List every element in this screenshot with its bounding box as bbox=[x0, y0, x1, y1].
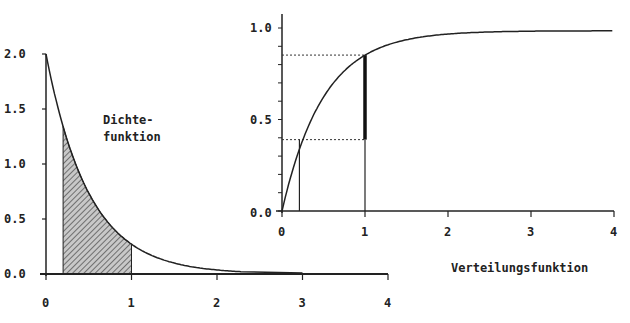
cdf-label: Verteilungsfunktion bbox=[451, 261, 588, 275]
density-label-line1: Dichte- bbox=[103, 113, 154, 127]
density-x-tick-label: 0 bbox=[42, 296, 49, 310]
density-y-tick-label: 2.0 bbox=[4, 47, 26, 61]
density-y-tick-label: 0.0 bbox=[4, 267, 26, 281]
cdf-x-tick-label: 3 bbox=[527, 225, 534, 239]
density-label-line2: funktion bbox=[103, 130, 161, 144]
density-x-ticks: 01234 bbox=[42, 274, 391, 310]
cdf-y-tick-label: 0.0 bbox=[250, 206, 272, 220]
chart-canvas: 0.00.51.01.52.0 01234 Dichte- funktion 0… bbox=[0, 0, 630, 323]
shaded-area bbox=[63, 127, 131, 275]
density-y-tick-label: 1.5 bbox=[4, 102, 26, 116]
density-y-tick-label: 1.0 bbox=[4, 157, 26, 171]
cdf-y-tick-label: 0.5 bbox=[250, 113, 272, 127]
cdf-x-tick-label: 4 bbox=[610, 225, 617, 239]
cdf-x-tick-label: 2 bbox=[444, 225, 451, 239]
density-x-tick-label: 2 bbox=[213, 296, 220, 310]
density-x-tick-label: 4 bbox=[384, 296, 391, 310]
cdf-y-tick-label: 1.0 bbox=[250, 21, 272, 35]
density-y-tick-label: 0.5 bbox=[4, 212, 26, 226]
cdf-chart: 0.00.51.0 01234 bbox=[250, 10, 622, 239]
density-x-tick-label: 1 bbox=[128, 296, 135, 310]
cdf-x-tick-label: 1 bbox=[361, 225, 368, 239]
density-x-tick-label: 3 bbox=[299, 296, 306, 310]
density-y-ticks: 0.00.51.01.52.0 bbox=[4, 47, 46, 281]
cdf-x-tick-label: 0 bbox=[278, 225, 285, 239]
